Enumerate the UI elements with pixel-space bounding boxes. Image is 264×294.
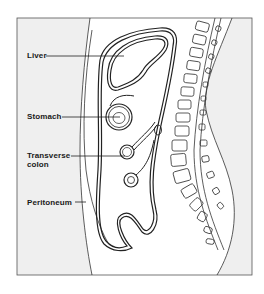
peritoneal-cavity: [96, 28, 176, 251]
stomach: [106, 95, 134, 130]
label-transverse-colon: Transverse colon: [27, 151, 70, 169]
label-liver: Liver: [27, 51, 47, 60]
label-stomach: Stomach: [27, 112, 62, 121]
label-peritoneum: Peritoneum: [27, 198, 72, 207]
abdomen-diagram: [0, 0, 264, 294]
